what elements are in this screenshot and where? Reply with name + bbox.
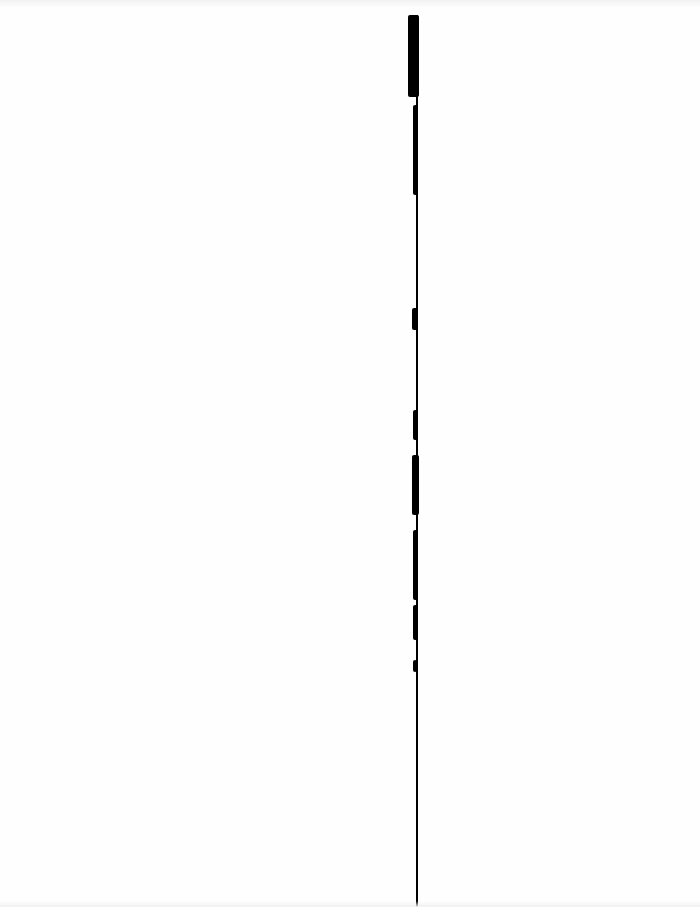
scan-blob-artifact [413,410,418,440]
scan-blob-artifact [413,605,418,640]
scan-blob-artifact [412,308,418,330]
scan-blob-artifact [413,530,418,600]
scan-blob-artifact [408,15,419,97]
scan-shadow-bottom [0,901,700,907]
scan-blob-artifact [412,455,419,515]
scan-blob-artifact [413,660,417,672]
blank-page [0,0,700,907]
scan-blob-artifact [413,105,418,195]
scan-shadow-top [0,0,700,8]
